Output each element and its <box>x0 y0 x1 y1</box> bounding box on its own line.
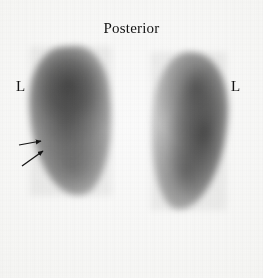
right-kidney-core <box>144 49 233 213</box>
marker-label-left: L <box>16 79 25 94</box>
renal-scintigram-image: Posterior L L <box>0 0 263 278</box>
marker-label-right: L <box>231 79 240 94</box>
left-kidney-uptake-region <box>30 46 112 196</box>
left-kidney-core <box>25 43 117 198</box>
view-title: Posterior <box>0 21 263 36</box>
right-kidney-uptake-region <box>151 52 227 210</box>
